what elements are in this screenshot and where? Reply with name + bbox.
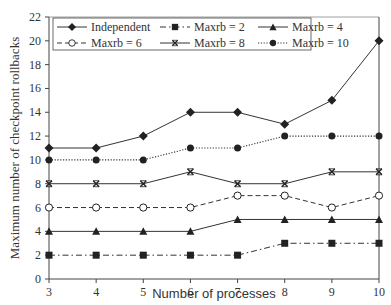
y-tick-label: 12 xyxy=(29,129,41,143)
x-tick-label: 9 xyxy=(329,285,335,299)
x-tick-label: 5 xyxy=(140,285,146,299)
data-point-marker xyxy=(281,240,288,247)
data-point-marker xyxy=(376,133,383,140)
data-point-marker xyxy=(187,252,194,259)
y-tick-label: 4 xyxy=(35,224,41,238)
y-tick-label: 22 xyxy=(29,10,41,24)
y-tick-label: 18 xyxy=(29,58,41,72)
series-maxrb-2 xyxy=(46,240,383,259)
legend-label: Maxrb = 10 xyxy=(292,36,349,50)
data-point-marker xyxy=(92,144,101,153)
line-chart: 0246810121416182022 345678910 Independen… xyxy=(0,0,391,305)
x-tick-label: 4 xyxy=(93,285,99,299)
data-point-marker xyxy=(328,240,335,247)
legend-label: Maxrb = 8 xyxy=(194,36,245,50)
data-point-marker xyxy=(139,132,148,141)
data-point-marker xyxy=(187,204,194,211)
data-point-marker xyxy=(234,252,241,259)
legend-marker-icon xyxy=(270,40,276,46)
data-point-marker xyxy=(93,252,100,259)
y-tick-label: 8 xyxy=(35,177,41,191)
data-point-marker xyxy=(375,192,382,199)
data-point-marker xyxy=(46,156,53,163)
data-point-marker xyxy=(328,133,335,140)
y-tick-label: 16 xyxy=(29,81,41,95)
data-point-marker xyxy=(376,240,383,247)
legend-label: Independent xyxy=(91,20,151,34)
y-tick-label: 14 xyxy=(29,105,41,119)
data-point-marker xyxy=(140,252,147,259)
data-point-marker xyxy=(281,192,288,199)
data-point-marker xyxy=(328,204,335,211)
x-tick-label: 8 xyxy=(282,285,288,299)
data-point-marker xyxy=(45,144,54,153)
legend-marker-icon xyxy=(172,24,178,30)
data-point-marker xyxy=(375,36,384,45)
legend: IndependentMaxrb = 2Maxrb = 4Maxrb = 6Ma… xyxy=(53,18,349,50)
legend-marker-icon xyxy=(69,40,75,46)
x-tick-label: 10 xyxy=(373,285,385,299)
data-point-marker xyxy=(281,133,288,140)
data-point-marker xyxy=(45,204,52,211)
series-line xyxy=(49,41,379,148)
series-maxrb-8 xyxy=(46,169,382,187)
y-tick-label: 20 xyxy=(29,34,41,48)
data-point-marker xyxy=(327,96,336,105)
legend-label: Maxrb = 4 xyxy=(292,20,343,34)
x-axis-title: Number of processes xyxy=(152,286,276,301)
data-point-marker xyxy=(187,169,193,175)
series-maxrb-6 xyxy=(45,192,382,211)
y-tick-label: 2 xyxy=(35,248,41,262)
x-tick-label: 3 xyxy=(46,285,52,299)
y-tick-label: 6 xyxy=(35,201,41,215)
legend-label: Maxrb = 2 xyxy=(194,20,245,34)
data-point-marker xyxy=(140,204,147,211)
data-point-marker xyxy=(140,156,147,163)
data-point-marker xyxy=(187,145,194,152)
data-point-marker xyxy=(234,192,241,199)
y-axis-title: Maximum number of checkpoint rollbacks xyxy=(7,37,22,259)
data-point-marker xyxy=(93,156,100,163)
data-point-marker xyxy=(93,204,100,211)
data-point-marker xyxy=(46,252,53,259)
series-layer xyxy=(45,36,384,258)
data-point-marker xyxy=(280,120,289,129)
series-maxrb-4 xyxy=(45,215,383,234)
y-tick-label: 10 xyxy=(29,153,41,167)
data-point-marker xyxy=(186,108,195,117)
y-tick-label: 0 xyxy=(35,272,41,286)
data-point-marker xyxy=(234,145,241,152)
data-point-marker xyxy=(233,108,242,117)
legend-label: Maxrb = 6 xyxy=(91,36,142,50)
